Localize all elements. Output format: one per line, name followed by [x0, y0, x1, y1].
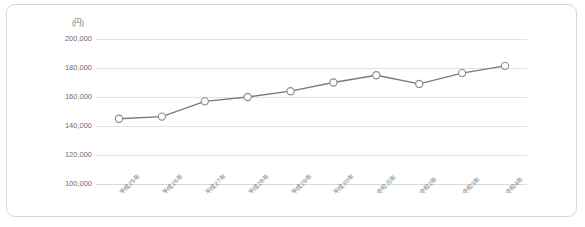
data-point-marker[interactable] — [287, 88, 294, 95]
data-point-marker[interactable] — [330, 79, 337, 86]
line-chart: (円) 200,000180,000160,000140,000120,0001… — [0, 0, 585, 227]
data-point-marker[interactable] — [158, 113, 165, 120]
data-point-marker[interactable] — [201, 98, 208, 105]
data-point-marker[interactable] — [501, 62, 508, 69]
chart-screenshot: (円) 200,000180,000160,000140,000120,0001… — [0, 0, 585, 227]
series-line — [119, 66, 505, 119]
data-point-marker[interactable] — [244, 93, 251, 100]
data-point-marker[interactable] — [373, 72, 380, 79]
data-point-marker[interactable] — [416, 80, 423, 87]
data-point-marker[interactable] — [115, 115, 122, 122]
data-point-marker[interactable] — [459, 69, 466, 76]
